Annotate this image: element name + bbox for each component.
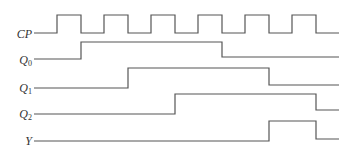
- waveform-q1: [34, 68, 339, 88]
- waveforms: [0, 0, 356, 157]
- timing-diagram: CP Q0 Q1 Q2 Y: [0, 0, 356, 157]
- waveform-y: [34, 121, 339, 141]
- waveform-q2: [34, 94, 339, 114]
- waveform-cp: [34, 15, 339, 33]
- waveform-q0: [34, 42, 339, 59]
